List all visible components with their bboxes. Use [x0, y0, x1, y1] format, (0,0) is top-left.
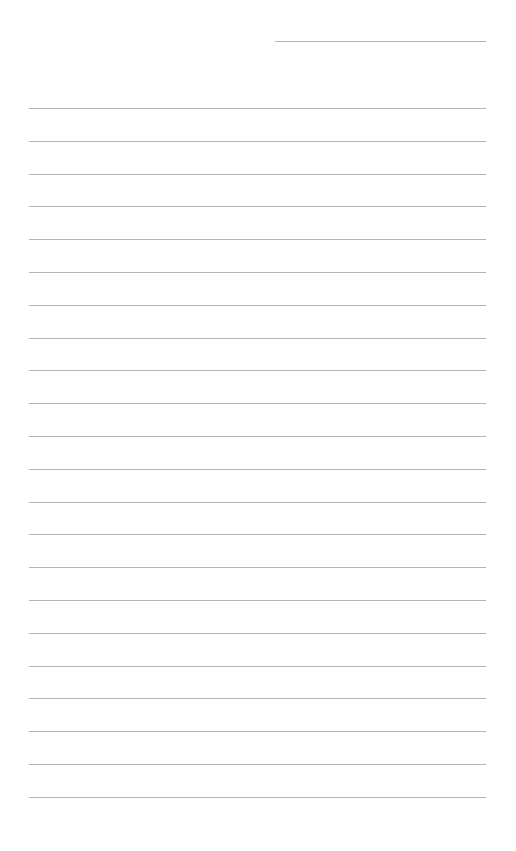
ruled-line	[29, 764, 486, 765]
ruled-line	[29, 469, 486, 470]
ruled-line	[29, 731, 486, 732]
ruled-line	[29, 239, 486, 240]
ruled-line	[29, 338, 486, 339]
ruled-line	[29, 600, 486, 601]
ruled-line	[29, 666, 486, 667]
ruled-line	[29, 633, 486, 634]
ruled-line	[29, 305, 486, 306]
ruled-line	[29, 108, 486, 109]
ruled-line	[29, 370, 486, 371]
ruled-line	[29, 797, 486, 798]
ruled-line	[29, 403, 486, 404]
ruled-line	[29, 698, 486, 699]
ruled-line	[29, 141, 486, 142]
ruled-line	[29, 436, 486, 437]
ruled-line	[29, 502, 486, 503]
header-name-line	[275, 41, 486, 42]
ruled-line	[29, 567, 486, 568]
ruled-line	[29, 174, 486, 175]
ruled-line	[29, 272, 486, 273]
ruled-line	[29, 206, 486, 207]
ruled-line	[29, 534, 486, 535]
